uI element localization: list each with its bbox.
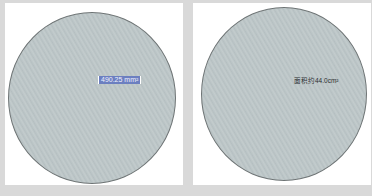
right-panel: 面积约44.0cm² — [193, 3, 371, 185]
left-panel: 490.25 mm² — [5, 3, 183, 185]
circle-shape-right[interactable] — [201, 7, 367, 181]
circle-shape-left[interactable] — [8, 12, 176, 184]
area-label-right[interactable]: 面积约44.0cm² — [294, 77, 338, 85]
area-label-left[interactable]: 490.25 mm² — [98, 76, 141, 84]
